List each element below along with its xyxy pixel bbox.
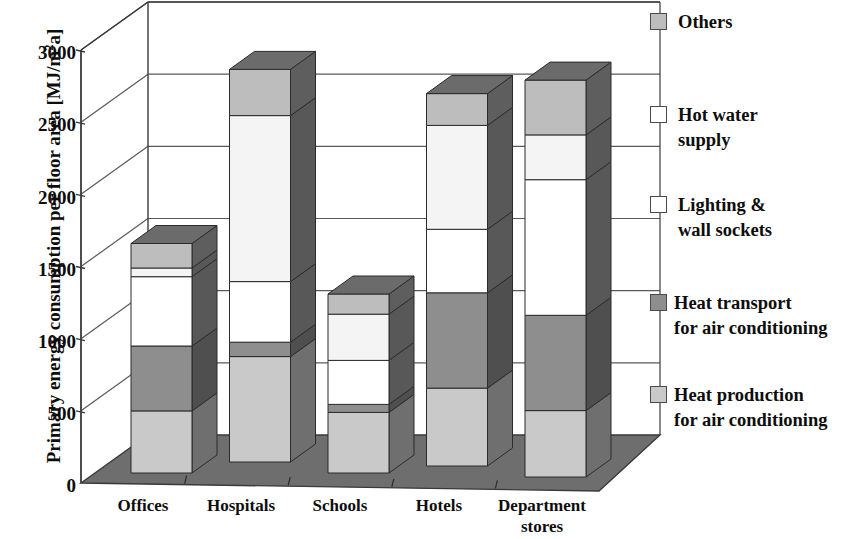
legend-item-others[interactable]: Others [650, 10, 732, 35]
bar-offices [131, 226, 217, 474]
segment-schools-1-front [328, 404, 389, 412]
segment-department-stores-2-front [525, 180, 586, 316]
legend-swatch-heat-transport [650, 294, 667, 311]
legend-label-heat-production: Heat production for air conditioning [674, 383, 828, 432]
segment-hotels-3-front [427, 125, 488, 229]
bar-hotels [427, 76, 513, 466]
x-tick-hospitals: Hospitals [185, 495, 297, 516]
segment-offices-0-front [131, 411, 192, 473]
legend-label-others: Others [678, 10, 732, 35]
segment-hospitals-3-side [291, 98, 316, 282]
segment-department-stores-0-front [525, 411, 586, 477]
legend-label-heat-transport: Heat transport for air conditioning [674, 291, 828, 340]
segment-hospitals-2-front [230, 282, 291, 343]
segment-schools-3-front [328, 314, 389, 360]
segment-department-stores-1-side [586, 297, 611, 410]
legend-item-heat-transport[interactable]: Heat transport for air conditioning [650, 291, 828, 340]
segment-hospitals-0-side [291, 339, 316, 462]
segment-hotels-1-side [488, 275, 513, 388]
segment-hotels-0-front [427, 388, 488, 466]
legend-item-heat-production[interactable]: Heat production for air conditioning [650, 383, 828, 432]
segment-offices-3-front [131, 268, 192, 277]
segment-department-stores-3-front [525, 135, 586, 180]
segment-offices-2-front [131, 277, 192, 346]
bar-schools [328, 276, 414, 473]
segment-schools-0-front [328, 412, 389, 473]
segment-department-stores-2-side [586, 162, 611, 316]
segment-hotels-3-side [488, 107, 513, 229]
x-tick-department-2: stores [478, 516, 606, 537]
x-tick-schools: Schools [285, 495, 395, 516]
segment-hotels-1-front [427, 293, 488, 388]
segment-hospitals-1-front [230, 342, 291, 356]
x-axis-tick-labels: Offices Hospitals Schools Hotels Departm… [0, 489, 680, 539]
segment-department-stores-1-front [525, 315, 586, 410]
legend: Others Hot water supply Lighting & wall … [650, 0, 858, 470]
plot-area [0, 0, 680, 539]
legend-swatch-hot-water-supply [650, 106, 667, 123]
segment-offices-4-front [131, 244, 192, 269]
legend-label-lighting-wall-sockets: Lighting & wall sockets [678, 193, 772, 242]
segment-hospitals-3-front [230, 116, 291, 282]
segment-department-stores-4-front [525, 80, 586, 135]
segment-hospitals-0-front [230, 357, 291, 462]
legend-item-lighting-wall-sockets[interactable]: Lighting & wall sockets [650, 193, 772, 242]
bar-department-stores [525, 62, 611, 477]
legend-swatch-heat-production [650, 386, 667, 403]
legend-label-hot-water-supply: Hot water supply [678, 103, 758, 152]
legend-swatch-others [650, 13, 667, 30]
legend-item-hot-water-supply[interactable]: Hot water supply [650, 103, 758, 152]
segment-hotels-2-front [427, 229, 488, 292]
chart-figure: Primary energy consumption per floor are… [0, 0, 858, 539]
x-tick-offices: Offices [88, 495, 198, 516]
segment-schools-4-front [328, 294, 389, 314]
segment-offices-1-front [131, 346, 192, 411]
segment-hospitals-4-front [230, 69, 291, 115]
bar-hospitals [230, 51, 316, 462]
segment-schools-2-front [328, 360, 389, 404]
segment-hotels-4-front [427, 94, 488, 126]
x-tick-department-1: Department [478, 495, 606, 516]
legend-swatch-lighting-wall-sockets [650, 196, 667, 213]
